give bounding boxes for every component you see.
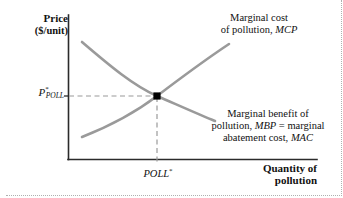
y-axis-title-line2: ($/unit) [35,25,68,36]
mbp-annotation-symbol: MBP [255,120,277,131]
mcp-annotation-symbol: MCP [275,24,297,35]
pollution-equilibrium-figure: Price($/unit) Quantity ofpollution P*POL… [0,0,343,198]
price-tick-label: P*POLL [20,86,64,98]
y-axis-title-line1: Price [44,12,68,24]
mac-annotation-symbol: MAC [291,132,313,143]
y-axis-title: Price($/unit) [6,12,68,37]
quantity-tick-symbol: POLL [143,168,169,179]
mbp-annotation-line2-prefix: pollution, [211,120,254,131]
equilibrium-point-marker [153,92,160,99]
x-axis-title-line2: pollution [275,174,317,186]
quantity-tick-label: POLL* [130,168,186,180]
mbp-annotation-line2-suffix: = marginal [276,120,324,131]
mbp-annotation-line3-prefix: abatement cost, [223,132,291,143]
figure-crop-edge-right [341,0,342,196]
figure-crop-edge-bottom [6,195,340,196]
x-axis-title-line1: Quantity of [263,162,317,174]
mcp-annotation: Marginal costof pollution, MCP [186,12,332,36]
x-axis-title: Quantity ofpollution [243,162,317,187]
mbp-annotation: Marginal benefit ofpollution, MBP = marg… [196,108,340,143]
mbp-annotation-line1: Marginal benefit of [227,108,308,119]
price-tick-subscript: POLL [46,91,64,100]
quantity-tick-superscript: * [169,167,173,175]
mcp-annotation-line2-prefix: of pollution, [221,24,276,35]
mcp-annotation-line1: Marginal cost [230,12,288,23]
